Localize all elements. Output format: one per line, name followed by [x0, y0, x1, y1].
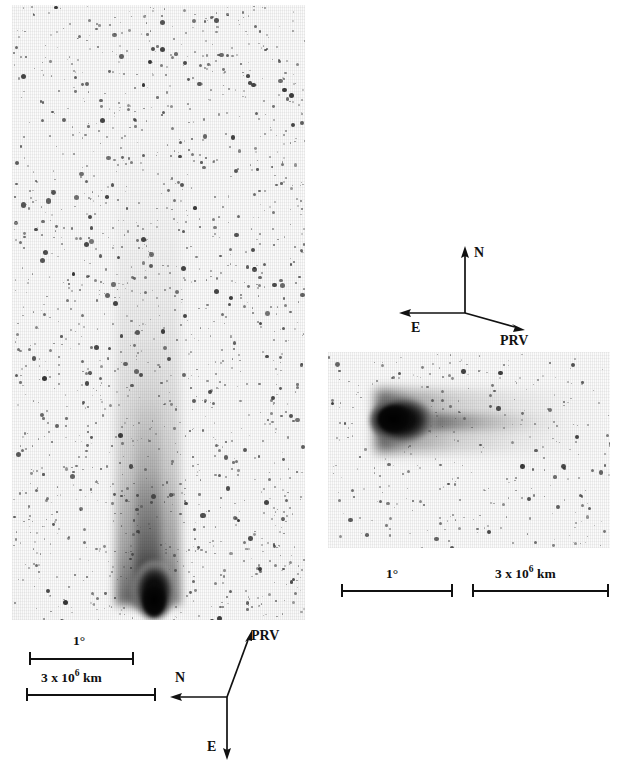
right-linear-tick-start [472, 584, 474, 597]
right-linear-scale-label: 3 x 106 km [495, 564, 556, 582]
right-angular-bar-line [341, 590, 452, 592]
prv-arrow-head-right [512, 324, 525, 332]
orientation-compass-right [0, 0, 624, 770]
prv-arrow-shaft-right [465, 313, 515, 327]
north-label-right: N [474, 245, 484, 261]
right-angular-tick-end [451, 584, 453, 597]
right-angular-scale-label: 1° [386, 566, 398, 582]
prv-label-right: PRV [500, 333, 528, 349]
right-angular-tick-start [341, 584, 343, 597]
right-linear-bar-line [472, 590, 608, 592]
comet-figure: 1° 3 x 106 km N E PRV [0, 0, 624, 770]
right-linear-tick-end [607, 584, 609, 597]
east-label-right: E [411, 320, 420, 336]
